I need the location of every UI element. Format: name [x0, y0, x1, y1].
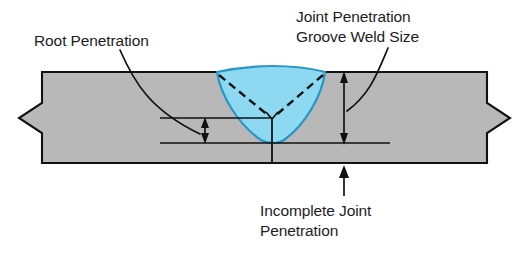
incomplete-joint-penetration-arrowhead [339, 165, 349, 178]
label-joint-penetration-line1: Joint Penetration [296, 8, 411, 25]
label-incomplete-joint-penetration-line2: Penetration [260, 222, 338, 239]
label-joint-penetration-line2: Groove Weld Size [296, 28, 419, 45]
weld-diagram-canvas: Joint Penetration and Root Penetration i… [0, 0, 524, 260]
label-root-penetration: Root Penetration [34, 32, 149, 49]
incomplete-joint-penetration-callout [339, 165, 349, 196]
weld-diagram-figure: Joint Penetration and Root Penetration i… [0, 0, 524, 260]
label-incomplete-joint-penetration-line1: Incomplete Joint [260, 202, 372, 219]
